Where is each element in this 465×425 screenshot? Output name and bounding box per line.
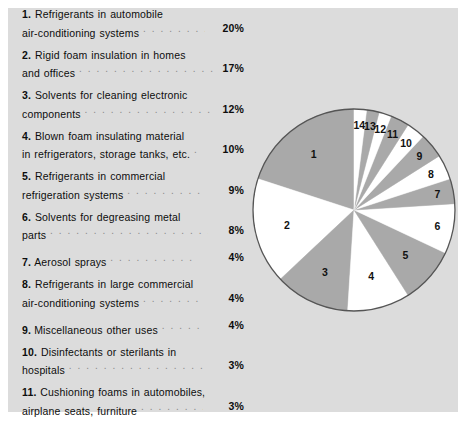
pie-slice-label: 2 (284, 219, 290, 231)
legend-item-line: airplane seats, furniture . . . . . . . … (22, 400, 244, 418)
legend-list: 1. Refrigerants in automobileair-conditi… (22, 8, 244, 400)
legend-item-percent: 12% (223, 103, 244, 117)
legend-item-text: components (22, 107, 85, 119)
pie-slices (253, 109, 455, 311)
legend-item: 7. Aerosol sprays . . . . . . . . . . . … (22, 251, 244, 269)
cfc-usage-figure: 1. Refrigerants in automobileair-conditi… (0, 0, 465, 425)
legend-item: 6. Solvents for degreasing metalparts . … (22, 211, 244, 243)
legend-item-percent: 4% (229, 292, 244, 306)
legend-item-line: air-conditioning systems . . . . . . . .… (22, 292, 244, 310)
legend-item: 2. Rigid foam insulation in homesand off… (22, 49, 244, 81)
legend-dot-leader: . . . . . . . . . . . . . . . . . . . . … (127, 184, 204, 198)
legend-item-line: 7. Aerosol sprays . . . . . . . . . . . … (22, 251, 244, 269)
legend-item-line: 1. Refrigerants in automobile (22, 8, 244, 22)
pie-slice-label: 14 (353, 119, 365, 131)
legend-item-line: air-conditioning systems . . . . . . . .… (22, 22, 244, 40)
legend-item-number: 4. (22, 130, 35, 142)
pie-slice-label: 8 (428, 168, 434, 180)
legend-item-percent: 9% (229, 184, 244, 198)
legend-item-text: Solvents for degreasing metal (35, 211, 181, 223)
legend-dot-leader: . . . . . . . . . . . . . . . . . . . . … (110, 251, 194, 265)
legend-item-number: 7. (22, 256, 34, 268)
legend-item-number: 1. (22, 8, 35, 20)
legend-item-line: components . . . . . . . . . . . . . . .… (22, 103, 244, 121)
legend-item-percent: 3% (229, 359, 244, 373)
legend-item-line: 4. Blown foam insulating material (22, 130, 244, 144)
legend-item-line: hospitals . . . . . . . . . . . . . . . … (22, 359, 244, 377)
legend-item-text: airplane seats, furniture (22, 404, 141, 416)
pie-slice-label: 9 (416, 150, 422, 162)
legend-item-text: Aerosol sprays (34, 256, 110, 268)
legend-item: 1. Refrigerants in automobileair-conditi… (22, 8, 244, 40)
legend-item-text: Cushioning foams in automobiles, (40, 386, 205, 398)
legend-item-text: Solvents for cleaning electronic (35, 89, 188, 101)
legend-item-number: 9. (22, 323, 34, 335)
legend-item-text: hospitals (22, 364, 69, 376)
legend-dot-leader: . . . . . . . . . . . . . . . . . . . . … (85, 103, 210, 117)
pie-slice-label: 7 (434, 188, 440, 200)
legend-item-line: 2. Rigid foam insulation in homes (22, 49, 244, 63)
pie-slice-label: 6 (434, 220, 440, 232)
legend-dot-leader: . . . . . . . . . . . . . . . . . . . . … (143, 292, 203, 306)
legend-item: 8. Refrigerants in large commercialair-c… (22, 278, 244, 310)
legend-item: 5. Refrigerants in commercialrefrigerati… (22, 170, 244, 202)
legend-dot-leader: . . . . . . . . . . . . . . . . . . . . … (143, 22, 205, 36)
legend-item-line: refrigeration systems . . . . . . . . . … (22, 184, 244, 202)
legend-item-number: 6. (22, 211, 35, 223)
legend-item-line: 3. Solvents for cleaning electronic (22, 89, 244, 103)
legend-item-text: Rigid foam insulation in homes (35, 49, 186, 61)
legend-item-number: 3. (22, 89, 35, 101)
pie-slice-label: 11 (387, 128, 398, 140)
legend-item: 10. Disinfectants or sterilants inhospit… (22, 346, 244, 378)
legend-item-text: and offices (22, 67, 79, 79)
legend-item-line: 6. Solvents for degreasing metal (22, 211, 244, 225)
legend-item: 11. Cushioning foams in automobiles,airp… (22, 386, 244, 418)
legend-item-number: 2. (22, 49, 35, 61)
legend-item-percent: 3% (229, 400, 244, 414)
legend-item-text: Refrigerants in commercial (35, 170, 165, 182)
pie-slice-label: 12 (374, 123, 386, 135)
legend-item-line: parts . . . . . . . . . . . . . . . . . … (22, 224, 244, 242)
legend-item-text: Blown foam insulating material (35, 130, 184, 142)
legend-item-percent: 4% (229, 319, 244, 333)
pie-slice-label: 13 (364, 120, 376, 132)
legend-item-percent: 17% (223, 62, 244, 76)
legend-dot-leader: . . . . . . . . . . . . . . . . . . . . … (194, 143, 198, 157)
legend-item-number: 5. (22, 170, 35, 182)
pie-slice-label: 10 (400, 137, 412, 149)
pie-slice-label: 5 (403, 249, 409, 261)
legend-item: 9. Miscellaneous other uses . . . . . . … (22, 319, 244, 337)
pie-slice-label: 1 (311, 148, 317, 160)
legend-dot-leader: . . . . . . . . . . . . . . . . . . . . … (162, 319, 204, 333)
legend-item-percent: 20% (223, 22, 244, 36)
legend-item-line: in refrigerators, storage tanks, etc. . … (22, 143, 244, 161)
pie-chart-svg: 1234567891011121314 (250, 106, 458, 314)
legend-item: 4. Blown foam insulating materialin refr… (22, 130, 244, 162)
legend-item-text: Refrigerants in large commercial (35, 278, 193, 290)
legend-item-text: Miscellaneous other uses (34, 323, 162, 335)
legend-item-text: in refrigerators, storage tanks, etc. (22, 148, 194, 160)
legend-dot-leader: . . . . . . . . . . . . . . . . . . . . … (69, 359, 207, 373)
pie-slice-label: 3 (322, 266, 328, 278)
legend-item-line: and offices . . . . . . . . . . . . . . … (22, 62, 244, 80)
legend-item-text: parts (22, 229, 50, 241)
legend-item-number: 11. (22, 386, 40, 398)
legend-item-percent: 8% (229, 224, 244, 238)
pie-slice-label: 4 (368, 270, 374, 282)
legend-item-number: 8. (22, 278, 35, 290)
pie-chart: 1234567891011121314 (250, 106, 458, 314)
legend-item-line: 8. Refrigerants in large commercial (22, 278, 244, 292)
legend-item-number: 10. (22, 346, 41, 358)
legend-item-percent: 10% (223, 143, 244, 157)
legend-item-text: Refrigerants in automobile (35, 8, 163, 20)
legend-item-line: 10. Disinfectants or sterilants in (22, 346, 244, 360)
legend-item-percent: 4% (229, 251, 244, 265)
legend-item-line: 9. Miscellaneous other uses . . . . . . … (22, 319, 244, 337)
legend-item-text: refrigeration systems (22, 188, 127, 200)
legend-item-line: 11. Cushioning foams in automobiles, (22, 386, 244, 400)
legend-item-text: air-conditioning systems (22, 296, 143, 308)
legend-item: 3. Solvents for cleaning electroniccompo… (22, 89, 244, 121)
legend-item-text: Disinfectants or sterilants in (41, 346, 176, 358)
legend-item-line: 5. Refrigerants in commercial (22, 170, 244, 184)
legend-item-text: air-conditioning systems (22, 26, 143, 38)
